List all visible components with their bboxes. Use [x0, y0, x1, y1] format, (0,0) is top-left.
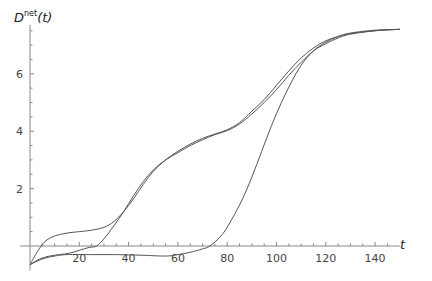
y-axis-label: Dnet(t): [14, 9, 52, 25]
y-axis-label-sup: net: [24, 9, 37, 18]
series-curve-1: [30, 29, 400, 264]
chart: 20406080100120140246 t Dnet(t): [0, 0, 432, 281]
x-axis-label: t: [400, 237, 406, 252]
x-tick-label: 100: [266, 252, 287, 265]
y-tick-label: 2: [16, 183, 23, 196]
y-axis-label-arg: (t): [37, 10, 52, 25]
y-axis-label-base: D: [14, 10, 24, 25]
y-tick-label: 4: [16, 125, 23, 138]
series-curve-3: [30, 29, 400, 264]
series-curve-2: [30, 29, 400, 264]
axes: 20406080100120140246: [16, 25, 400, 270]
x-tick-label: 140: [365, 252, 386, 265]
x-tick-label: 40: [122, 252, 136, 265]
x-tick-label: 120: [315, 252, 336, 265]
x-tick-label: 80: [220, 252, 234, 265]
line-chart: 20406080100120140246 t Dnet(t): [0, 0, 432, 281]
y-tick-label: 6: [16, 68, 23, 81]
curves: [30, 29, 400, 264]
x-tick-label: 20: [72, 252, 86, 265]
